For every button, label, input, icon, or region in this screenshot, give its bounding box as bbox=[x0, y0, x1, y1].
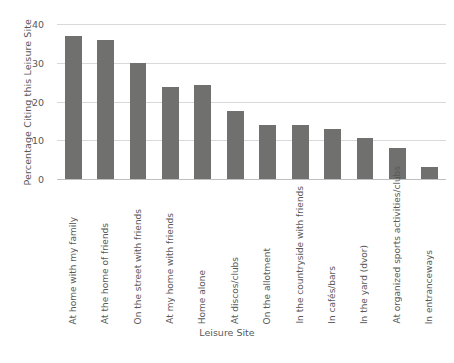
x-axis-tick-label: In cafés/bars bbox=[328, 266, 337, 324]
x-axis-tick-labels: At home with my familyAt the home of fri… bbox=[57, 182, 446, 324]
x-axis-tick: In the yard (dvor) bbox=[349, 182, 381, 324]
x-axis-tick-label: In the yard (dvor) bbox=[360, 245, 369, 324]
bar[interactable] bbox=[324, 129, 341, 179]
x-axis-tick: At discos/clubs bbox=[219, 182, 251, 324]
bar[interactable] bbox=[130, 63, 147, 179]
bar-chart: Percentage Citing this Leisure Site 0102… bbox=[0, 0, 454, 363]
y-axis-tick-label: 10 bbox=[32, 135, 44, 146]
x-axis-tick-label: At the home of friends bbox=[101, 223, 110, 324]
x-axis-tick: On the street with friends bbox=[122, 182, 154, 324]
x-axis-tick-label: In entranceways bbox=[425, 250, 434, 324]
x-axis-tick-label: At home with my family bbox=[69, 217, 78, 324]
bar[interactable] bbox=[162, 87, 179, 179]
x-axis-tick: In entranceways bbox=[414, 182, 446, 324]
y-axis-tick-label: 20 bbox=[32, 96, 44, 107]
x-axis-title: Leisure Site bbox=[0, 327, 454, 338]
x-axis-tick: At home with my family bbox=[57, 182, 89, 324]
y-axis-tick-label: 0 bbox=[38, 174, 44, 185]
x-axis-tick-label: At my home with friends bbox=[166, 213, 175, 324]
x-axis-tick-label: In the countryside with friends bbox=[296, 186, 305, 324]
bar[interactable] bbox=[227, 111, 244, 179]
bar[interactable] bbox=[357, 138, 374, 179]
x-axis-tick-label: Home alone bbox=[198, 270, 207, 324]
x-axis-tick: On the allotment bbox=[252, 182, 284, 324]
bar[interactable] bbox=[259, 125, 276, 179]
x-axis-tick: Home alone bbox=[187, 182, 219, 324]
x-axis-tick-label: At discos/clubs bbox=[231, 257, 240, 324]
bars-layer bbox=[57, 24, 446, 179]
x-axis-tick: At the home of friends bbox=[89, 182, 121, 324]
bar[interactable] bbox=[292, 125, 309, 179]
y-axis-tick-label: 40 bbox=[32, 19, 44, 30]
x-axis-line bbox=[57, 179, 446, 180]
x-axis-title-label: Leisure Site bbox=[199, 327, 254, 338]
x-axis-tick: At my home with friends bbox=[154, 182, 186, 324]
x-axis-tick: In cafés/bars bbox=[316, 182, 348, 324]
bar[interactable] bbox=[97, 40, 114, 180]
y-axis-tick-labels: 010203040 bbox=[0, 24, 52, 179]
x-axis-tick: At organized sports activities/clubs bbox=[381, 182, 413, 324]
x-axis-tick: In the countryside with friends bbox=[284, 182, 316, 324]
x-axis-tick-label: On the allotment bbox=[263, 248, 272, 324]
y-axis-tick-label: 30 bbox=[32, 57, 44, 68]
x-axis-tick-label: At organized sports activities/clubs bbox=[393, 166, 402, 324]
bar[interactable] bbox=[194, 85, 211, 179]
x-axis-tick-label: On the street with friends bbox=[134, 209, 143, 324]
bar[interactable] bbox=[421, 167, 438, 179]
bar[interactable] bbox=[65, 36, 82, 179]
